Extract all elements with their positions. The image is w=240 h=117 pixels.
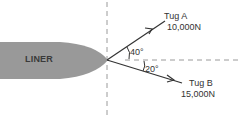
tug-a-angle: 40° xyxy=(130,47,144,57)
force-diagram: LINER Tug A 10,000N 40° 20° Tug B 15,000… xyxy=(0,0,240,117)
tug-b-angle: 20° xyxy=(145,64,159,74)
tug-a-name: Tug A xyxy=(164,11,187,21)
tug-b-force: 15,000N xyxy=(181,89,215,99)
liner-hull xyxy=(0,42,108,79)
tug-b-name: Tug B xyxy=(189,78,213,88)
liner-label: LINER xyxy=(25,54,53,64)
tug-a-force: 10,000N xyxy=(167,22,201,32)
